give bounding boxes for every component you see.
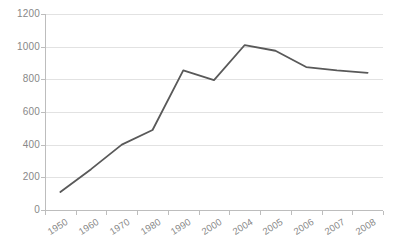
series-line-1 <box>60 45 367 192</box>
series-layer <box>0 0 404 246</box>
line-chart: 1200 1000 800 600 400 200 0 195019601970… <box>0 0 404 246</box>
